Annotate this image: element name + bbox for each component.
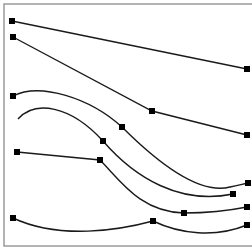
- curve-group: [9, 18, 251, 233]
- square-marker-icon: [149, 108, 155, 114]
- curve-5: [17, 152, 247, 213]
- square-marker-icon: [244, 204, 250, 210]
- square-marker-icon: [181, 210, 187, 216]
- square-marker-icon: [10, 34, 16, 40]
- curve-4: [18, 108, 233, 196]
- curve-1: [12, 21, 247, 69]
- square-marker-icon: [244, 222, 250, 228]
- frame-border: [4, 4, 252, 246]
- curves-diagram: [0, 0, 252, 252]
- square-marker-icon: [230, 191, 236, 197]
- square-marker-icon: [14, 149, 20, 155]
- square-marker-icon: [100, 138, 106, 144]
- square-marker-icon: [245, 180, 251, 186]
- curve-6: [13, 218, 247, 233]
- square-marker-icon: [10, 215, 16, 221]
- square-marker-icon: [119, 124, 125, 130]
- square-marker-icon: [97, 157, 103, 163]
- square-marker-icon: [244, 66, 250, 72]
- diagram-canvas: [0, 0, 252, 252]
- square-marker-icon: [150, 218, 156, 224]
- square-marker-icon: [9, 18, 15, 24]
- square-marker-icon: [244, 132, 250, 138]
- curve-2: [13, 37, 247, 135]
- square-marker-icon: [10, 93, 16, 99]
- curve-3: [13, 91, 248, 188]
